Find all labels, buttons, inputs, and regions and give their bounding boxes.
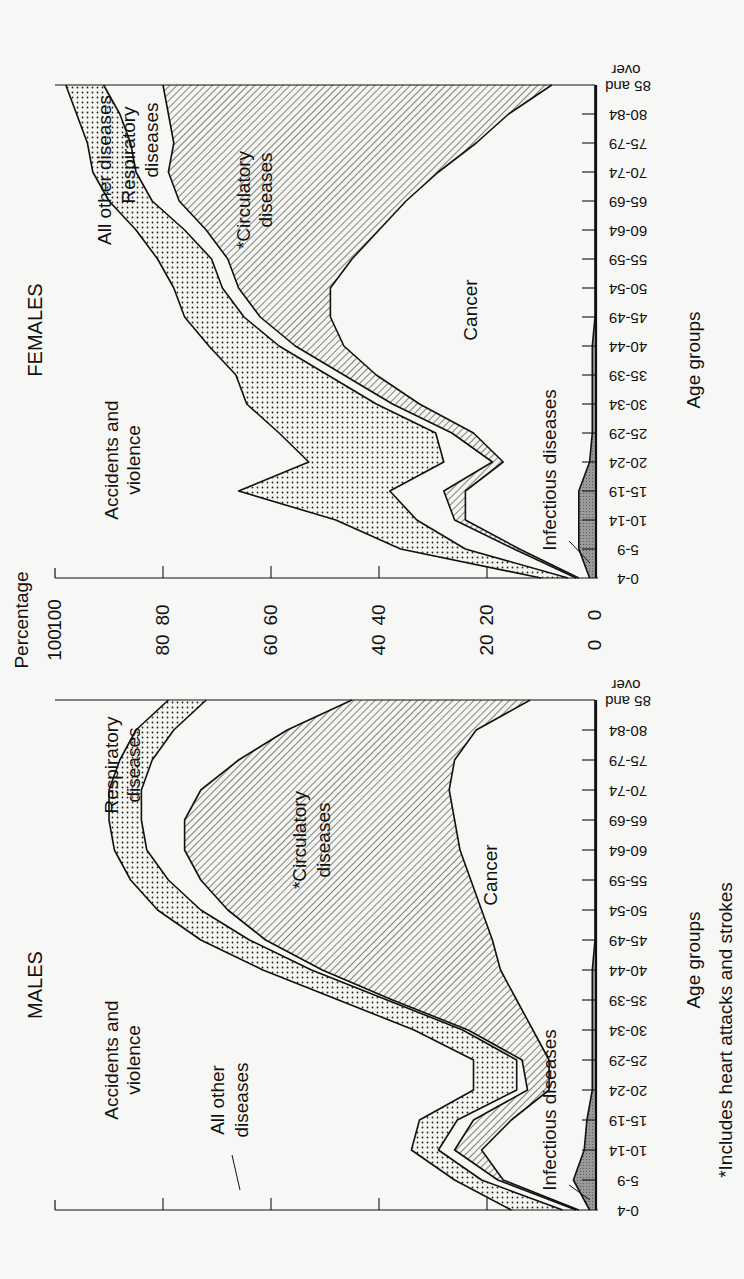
age-tick-label: 45-49 xyxy=(609,933,647,950)
footnote: *Includes heart attacks and strokes xyxy=(715,882,736,1178)
age-tick-label: 20-24 xyxy=(609,455,647,472)
age-tick-label: 5-9 xyxy=(617,1173,639,1190)
males-percentage-tick: 60 xyxy=(260,634,281,655)
age-tick-label: 10-14 xyxy=(609,1143,647,1160)
age-tick-label: 70-74 xyxy=(609,165,647,182)
females-percentage-tick: 0 xyxy=(584,610,605,621)
label-respiratory: Respiratory xyxy=(118,106,139,204)
males-percentage-tick: 100 xyxy=(44,629,65,661)
males-title: MALES xyxy=(24,951,46,1019)
females-percentage-tick: 40 xyxy=(368,604,389,625)
age-tick-label: 15-19 xyxy=(609,484,647,501)
males-percentage-tick: 40 xyxy=(368,634,389,655)
age-tick-label: 35-39 xyxy=(609,368,647,385)
females-age-axis-title: Age groups xyxy=(683,311,704,408)
males-percentage-tick: 80 xyxy=(152,634,173,655)
age-tick-label: 60-64 xyxy=(609,223,647,240)
females-percentage-tick: 100 xyxy=(44,599,65,631)
females-percentage-tick: 20 xyxy=(476,604,497,625)
label-circulatory: diseases xyxy=(313,803,334,878)
mortality-charts: 0-45-910-1415-1920-2425-2930-3435-3940-4… xyxy=(0,0,744,1279)
age-tick-label: 5-9 xyxy=(617,542,639,559)
age-tick-label: 75-79 xyxy=(609,136,647,153)
females-percentage-tick: 80 xyxy=(152,604,173,625)
age-tick-label: 10-14 xyxy=(609,513,647,530)
age-tick-label: 80-84 xyxy=(609,107,647,124)
label-circulatory: diseases xyxy=(255,153,276,228)
label-respiratory: diseases xyxy=(123,728,144,803)
age-tick-label: 25-29 xyxy=(609,1053,647,1070)
age-tick-label: 15-19 xyxy=(609,1113,647,1130)
age-tick-label: 50-54 xyxy=(609,281,647,298)
label-circulatory: *Circulatory xyxy=(289,790,310,889)
age-tick-label: 85 and xyxy=(605,693,651,710)
age-tick-label: 70-74 xyxy=(609,783,647,800)
label-circulatory: *Circulatory xyxy=(233,150,254,249)
label-all-other-diseases: diseases xyxy=(231,1063,252,1138)
age-tick-label: 0-4 xyxy=(617,571,639,588)
males-age-axis-title: Age groups xyxy=(683,911,704,1008)
age-tick-label: 65-69 xyxy=(609,813,647,830)
age-tick-label: 55-59 xyxy=(609,252,647,269)
label-accidents: Accidents and xyxy=(101,1000,122,1119)
label-respiratory: Respiratory xyxy=(101,716,122,814)
label-all-other-diseases: All other diseases xyxy=(94,95,115,245)
age-tick-label: 0-4 xyxy=(617,1203,639,1220)
label-infectious: Infectious diseases xyxy=(539,1029,560,1191)
age-tick-label: 60-64 xyxy=(609,843,647,860)
age-tick-label: 50-54 xyxy=(609,903,647,920)
label-accidents: violence xyxy=(123,425,144,495)
age-tick-label: 40-44 xyxy=(609,339,647,356)
age-tick-label: over xyxy=(611,677,640,694)
age-tick-label: 35-39 xyxy=(609,993,647,1010)
age-tick-label: 65-69 xyxy=(609,194,647,211)
label-accidents: violence xyxy=(123,1025,144,1095)
age-tick-label: 30-34 xyxy=(609,397,647,414)
label-respiratory: diseases xyxy=(141,103,162,178)
age-tick-label: 20-24 xyxy=(609,1083,647,1100)
age-tick-label: 55-59 xyxy=(609,873,647,890)
label-infectious: Infectious diseases xyxy=(539,389,560,551)
females-title: FEMALES xyxy=(24,283,46,376)
percentage-axis-title: Percentage xyxy=(11,571,32,668)
label-all-other-diseases: All other xyxy=(207,1064,228,1134)
age-tick-label: 25-29 xyxy=(609,426,647,443)
age-tick-label: 85 and xyxy=(605,78,651,95)
age-tick-label: 40-44 xyxy=(609,963,647,980)
label-cancer: Cancer xyxy=(460,279,481,341)
age-tick-label: over xyxy=(611,62,640,79)
females-percentage-tick: 60 xyxy=(260,604,281,625)
age-tick-label: 75-79 xyxy=(609,753,647,770)
males-percentage-tick: 0 xyxy=(584,640,605,651)
age-tick-label: 80-84 xyxy=(609,723,647,740)
label-cancer: Cancer xyxy=(480,844,501,906)
label-accidents: Accidents and xyxy=(101,400,122,519)
age-tick-label: 45-49 xyxy=(609,310,647,327)
age-tick-label: 30-34 xyxy=(609,1023,647,1040)
males-percentage-tick: 20 xyxy=(476,634,497,655)
